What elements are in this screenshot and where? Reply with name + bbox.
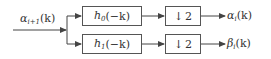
down-arrow-icon: ↓ (174, 10, 183, 23)
filter-h1-box: h1(−k) (82, 34, 142, 54)
output-beta-label: βi(k) (227, 38, 251, 51)
output-alpha-label: αi(k) (227, 10, 252, 23)
input-signal-label: αi+1(k) (20, 13, 55, 26)
down-arrow-icon: ↓ (174, 38, 183, 51)
downsample-box-top: ↓2 (165, 6, 201, 26)
downsample-box-bottom: ↓2 (165, 34, 201, 54)
filter-h0-box: h0(−k) (82, 6, 142, 26)
